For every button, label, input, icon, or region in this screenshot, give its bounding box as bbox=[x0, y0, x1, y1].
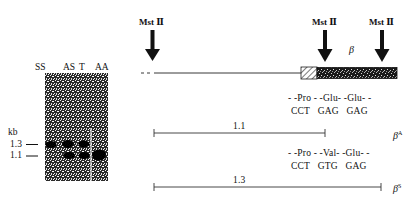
allele-label-betaA: βA bbox=[393, 130, 402, 141]
band-as-1-1 bbox=[63, 152, 75, 159]
allele-label-betaS: βS bbox=[393, 183, 401, 194]
band-t-1-1 bbox=[79, 152, 90, 159]
fragment-size-1-3: 1.3 bbox=[233, 175, 245, 185]
mst2-arrow-3 bbox=[375, 30, 390, 62]
band-as-1-3 bbox=[62, 140, 74, 148]
codons-betaA: CCT GAG GAG bbox=[291, 106, 368, 116]
codons-betaS: CCT GTG GAG bbox=[291, 161, 367, 171]
mst2-label-2: Mst Ⅱ bbox=[312, 17, 337, 27]
mst2-arrow-2 bbox=[318, 30, 333, 62]
promoter-box bbox=[301, 67, 317, 79]
amino-acids-betaA: - -Pro - -Glu- -Glu- - bbox=[288, 93, 371, 103]
mst2-arrow-1 bbox=[145, 30, 160, 61]
gel-image bbox=[45, 73, 108, 181]
allele-betaS-sup: S bbox=[398, 183, 401, 189]
allele-betaA-sup: A bbox=[398, 130, 402, 136]
amino-acids-betaS: - -Pro - -Val- -Glu- - bbox=[288, 148, 370, 158]
beta-gene-label: β bbox=[349, 44, 354, 55]
band-aa-1-1 bbox=[92, 150, 106, 161]
beta-gene-box bbox=[317, 68, 397, 79]
band-t-1-3 bbox=[79, 141, 90, 148]
band-ss-1-3 bbox=[46, 141, 57, 148]
fragment-size-1-1: 1.1 bbox=[233, 121, 245, 131]
fragment-1-3-line bbox=[154, 183, 381, 191]
mst2-label-1: Mst Ⅱ bbox=[139, 17, 164, 27]
mst2-label-3: Mst Ⅱ bbox=[369, 17, 394, 27]
